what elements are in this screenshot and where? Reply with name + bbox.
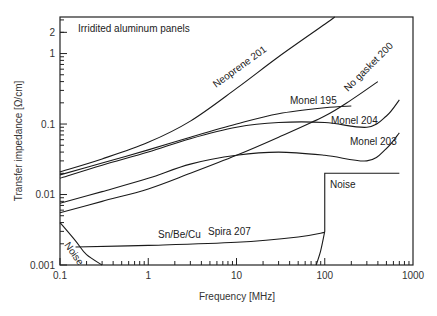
curve-label-no-gasket-200: No gasket 200 [342,40,396,94]
x-tick-label: 1000 [402,270,425,281]
curve-label-sn-be-cu: Sn/Be/Cu [158,229,201,240]
panel-annotation: Irridited aluminum panels [78,23,190,34]
x-tick-labels: 0.11101001000 [53,270,425,281]
y-tick-label: 0.001 [30,260,55,271]
curve-label-monel-203: Monel 203 [350,136,397,147]
y-axis-label: Transfer impedance [Ω/cm] [13,81,24,202]
x-tick-label: 1 [145,270,151,281]
x-tick-label: 100 [316,270,333,281]
y-tick-label: 0.1 [41,119,55,130]
series-monel-203 [60,133,399,203]
x-tick-label: 10 [231,270,243,281]
curve-label-neoprene-201: Neoprene 201 [211,43,269,89]
y-tick-labels: 0.0010.010.112 [30,27,55,271]
transfer-impedance-chart: 0.11101001000 0.0010.010.112 Irridited a… [0,0,437,316]
curve-label-spira-207: Spira 207 [208,226,251,237]
curve-label-monel-195: Monel 195 [290,95,337,106]
curve-label-noise-low: Noise [62,240,86,268]
series-noise-high-frequency- [316,173,399,265]
x-axis-label: Frequency [MHz] [199,291,275,302]
series-monel-204 [60,100,399,178]
curve-label-monel-204: Monel 204 [331,115,378,126]
curve-label-noise-high: Noise [330,179,356,190]
x-tick-label: 0.1 [53,270,67,281]
y-tick-label: 0.01 [36,189,56,200]
y-tick-label: 2 [49,27,55,38]
y-tick-label: 1 [49,48,55,59]
